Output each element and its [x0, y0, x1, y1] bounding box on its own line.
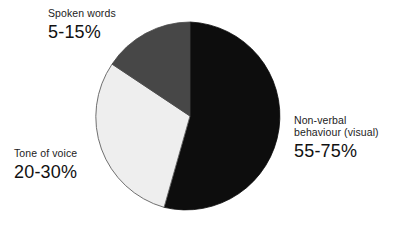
label-non-verbal-behaviour: Non-verbal behaviour (visual) 55-75%: [294, 115, 379, 161]
label-tone-of-voice: Tone of voice 20-30%: [14, 148, 77, 182]
label-non-verbal-value: 55-75%: [294, 141, 379, 161]
label-non-verbal-title-line2: behaviour (visual): [294, 127, 379, 139]
label-spoken-words: Spoken words 5-15%: [48, 8, 116, 42]
label-spoken-words-value: 5-15%: [48, 22, 116, 42]
label-spoken-words-title: Spoken words: [48, 8, 116, 20]
pie-chart-figure: Spoken words 5-15% Tone of voice 20-30% …: [0, 0, 401, 230]
label-tone-of-voice-title: Tone of voice: [14, 148, 77, 160]
label-non-verbal-title-line1: Non-verbal: [294, 115, 379, 127]
label-tone-of-voice-value: 20-30%: [14, 162, 77, 182]
